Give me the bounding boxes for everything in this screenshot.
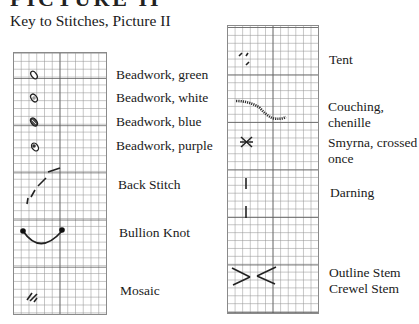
label-crewel-stem: Crewel Stem [329,281,399,297]
stitch-grid-left [13,52,107,315]
label-smyrna: Smyrna, crossed [328,135,417,151]
label-smyrna-line2: once [328,151,353,167]
label-bullion-knot: Bullion Knot [119,225,190,241]
label-tent: Tent [329,52,353,68]
label-couching: Couching, [328,99,384,115]
label-beadwork-blue: Beadwork, blue [116,114,201,130]
label-outline-stem: Outline Stem [329,265,401,281]
label-beadwork-purple: Beadwork, purple [116,138,213,154]
label-beadwork-white: Beadwork, white [116,90,208,106]
label-darning: Darning [330,185,374,201]
label-back-stitch: Back Stitch [118,177,181,193]
page-heading: PICTURE II [10,0,162,12]
label-mosaic: Mosaic [120,283,160,299]
label-beadwork-green: Beadwork, green [116,67,208,83]
stitch-grid-right [227,25,319,314]
label-couching-line2: chenille [328,115,371,131]
page-subtitle: Key to Stitches, Picture II [10,12,171,30]
